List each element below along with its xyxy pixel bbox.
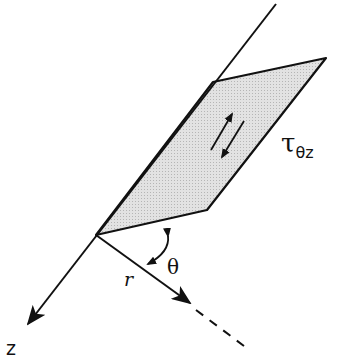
theta-angle-arrow xyxy=(148,236,168,264)
shear-stress-label: τθz xyxy=(281,128,314,162)
tau-subscript: θz xyxy=(295,143,313,162)
r-axis-dashed-extension xyxy=(196,310,248,349)
z-axis-label: z xyxy=(6,337,16,359)
r-label: r xyxy=(124,268,133,290)
diagram-canvas xyxy=(0,0,337,361)
tau-symbol: τ xyxy=(281,128,295,158)
theta-label: θ xyxy=(167,255,179,279)
